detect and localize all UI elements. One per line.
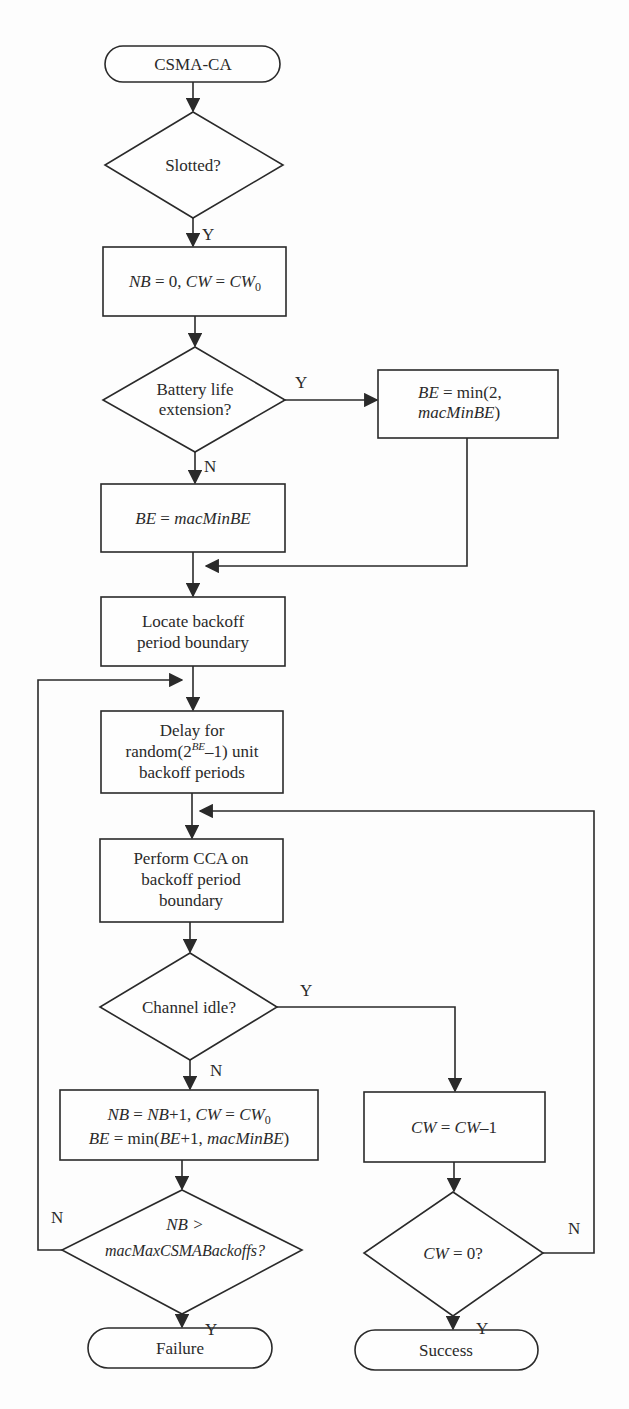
decision-battery: Battery life extension? (103, 347, 285, 452)
terminal-success-label: Success (419, 1341, 473, 1360)
process-cwdec: CW = CW–1 (364, 1092, 545, 1162)
label-nbmax-yes: Y (205, 1320, 217, 1339)
process-update-line1: NB = NB+1, CW = CW0 (106, 1105, 270, 1127)
process-be-min2-line2: macMinBE) (418, 403, 500, 422)
terminal-failure-label: Failure (156, 1339, 204, 1358)
label-battery-yes: Y (295, 373, 307, 392)
terminal-failure: Failure (88, 1328, 272, 1368)
decision-battery-line2: extension? (159, 400, 232, 419)
process-be-min2-line1: BE = min(2, (418, 383, 502, 402)
process-delay-line1: Delay for (160, 721, 225, 740)
decision-idle: Channel idle? (100, 953, 277, 1060)
process-delay: Delay for random(2BE–1) unit backoff per… (101, 711, 283, 793)
decision-battery-line1: Battery life (157, 380, 234, 399)
decision-nbmax-line1: NB > (165, 1215, 203, 1234)
csma-ca-flowchart: CSMA-CA Slotted? NB = 0, CW = CW0 Batter… (0, 0, 629, 1409)
decision-cwzero-label: CW = 0? (423, 1244, 483, 1263)
process-cwdec-label: CW = CW–1 (411, 1118, 497, 1137)
process-update: NB = NB+1, CW = CW0 BE = min(BE+1, macMi… (60, 1090, 318, 1160)
terminal-start-label: CSMA-CA (154, 55, 232, 74)
decision-nbmax: NB > macMaxCSMABackoffs? (62, 1190, 302, 1314)
edge-idle-yes (277, 1007, 455, 1091)
process-cca: Perform CCA on backoff period boundary (100, 839, 283, 922)
terminal-success: Success (355, 1330, 538, 1370)
process-be-min2: BE = min(2, macMinBE) (378, 370, 558, 438)
process-cca-line2: backoff period (141, 870, 241, 889)
label-slotted-yes: Y (202, 225, 214, 244)
decision-idle-label: Channel idle? (142, 998, 236, 1017)
decision-cwzero: CW = 0? (364, 1192, 543, 1316)
process-init: NB = 0, CW = CW0 (103, 247, 286, 316)
label-idle-yes: Y (300, 981, 312, 1000)
process-update-line2: BE = min(BE+1, macMinBE) (89, 1129, 290, 1148)
process-locate-line2: period boundary (137, 633, 249, 652)
process-locate: Locate backoff period boundary (101, 597, 285, 666)
label-nbmax-no: N (51, 1208, 63, 1227)
label-cwzero-no: N (568, 1219, 580, 1238)
decision-nbmax-line2: macMaxCSMABackoffs? (105, 1242, 265, 1260)
process-be-macmin: BE = macMinBE (101, 484, 285, 552)
label-idle-no: N (210, 1061, 222, 1080)
process-cca-line3: boundary (159, 891, 224, 910)
process-init-label: NB = 0, CW = CW0 (128, 272, 261, 294)
process-locate-line1: Locate backoff (142, 612, 244, 631)
process-be-macmin-label: BE = macMinBE (135, 509, 251, 528)
decision-slotted-label: Slotted? (165, 156, 221, 175)
terminal-start: CSMA-CA (105, 46, 280, 82)
decision-slotted: Slotted? (105, 112, 283, 218)
label-battery-no: N (204, 457, 216, 476)
process-cca-line1: Perform CCA on (133, 849, 249, 868)
label-cwzero-yes: Y (476, 1319, 488, 1338)
process-delay-line3: backoff periods (139, 763, 245, 782)
